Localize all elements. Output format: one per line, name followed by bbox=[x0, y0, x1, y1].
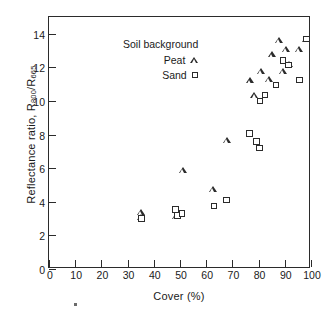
y-axis-tick-label: 6 bbox=[39, 164, 45, 175]
legend-label-peat: Peat bbox=[164, 55, 186, 66]
triangle-marker-icon bbox=[246, 77, 254, 83]
square-marker-icon bbox=[253, 138, 260, 145]
x-axis-tick: 100 bbox=[311, 260, 312, 267]
x-axis-tick-label: 100 bbox=[303, 270, 321, 281]
square-marker-icon bbox=[262, 92, 269, 99]
x-axis-tick-label: 60 bbox=[201, 270, 213, 281]
x-axis-tick-label: 50 bbox=[175, 270, 187, 281]
x-axis-tick: 0 bbox=[49, 260, 50, 267]
square-marker-icon bbox=[296, 77, 303, 84]
x-axis-tick: 30 bbox=[128, 260, 129, 267]
y-axis-tick: 2 bbox=[49, 235, 56, 236]
scatter-chart-figure: 02468101214 0102030405060708090100 Soil … bbox=[0, 0, 330, 317]
triangle-marker-icon bbox=[268, 51, 276, 57]
x-axis-tick-label: 20 bbox=[97, 270, 109, 281]
x-axis-tick-label: 10 bbox=[70, 270, 82, 281]
x-axis-tick: 20 bbox=[101, 260, 102, 267]
square-marker-icon bbox=[246, 130, 253, 137]
triangle-marker-icon bbox=[179, 167, 187, 173]
x-axis-tick: 10 bbox=[75, 260, 76, 267]
x-axis-title: Cover (%) bbox=[48, 290, 310, 302]
triangle-marker-icon bbox=[295, 46, 303, 52]
square-marker-icon bbox=[257, 98, 264, 105]
square-marker-icon bbox=[211, 203, 218, 210]
legend-label-sand: Sand bbox=[162, 70, 187, 81]
x-axis-tick-label: 40 bbox=[149, 270, 161, 281]
legend-entry-peat: Peat bbox=[123, 53, 198, 68]
x-axis-tick: 90 bbox=[285, 260, 286, 267]
x-axis-tick: 80 bbox=[259, 260, 260, 267]
y-axis-tick: 8 bbox=[49, 135, 56, 136]
square-marker-icon bbox=[273, 82, 280, 89]
plot-area: 02468101214 0102030405060708090100 Soil … bbox=[48, 16, 310, 268]
y-axis-title-sub-665: 665 bbox=[29, 65, 38, 78]
y-axis-title: Reflectance ratio, R800/R665 bbox=[25, 25, 38, 245]
triangle-marker-icon bbox=[223, 137, 231, 143]
square-marker-icon bbox=[192, 72, 199, 79]
square-marker-icon bbox=[256, 145, 263, 152]
y-axis-title-mid: /R bbox=[25, 79, 37, 90]
y-axis-tick-label: 8 bbox=[39, 130, 45, 141]
legend-title: Soil background bbox=[123, 39, 198, 50]
y-axis-tick-label: 4 bbox=[39, 198, 45, 209]
triangle-marker-icon bbox=[275, 37, 283, 43]
x-axis-tick-label: 70 bbox=[228, 270, 240, 281]
y-axis-tick: 14 bbox=[49, 34, 56, 35]
x-axis-tick-label: 90 bbox=[280, 270, 292, 281]
y-axis-tick: 4 bbox=[49, 202, 56, 203]
y-axis-tick-label: 2 bbox=[39, 231, 45, 242]
page-artifact-mark bbox=[74, 303, 77, 306]
square-marker-icon bbox=[303, 36, 310, 43]
square-marker-icon bbox=[223, 197, 230, 204]
chart-legend: Soil background Peat Sand bbox=[123, 39, 198, 83]
square-marker-icon bbox=[138, 215, 145, 222]
x-axis-tick: 60 bbox=[206, 260, 207, 267]
triangle-marker-icon bbox=[282, 46, 290, 52]
x-axis-tick: 70 bbox=[232, 260, 233, 267]
y-axis-title-sub-800: 800 bbox=[29, 90, 38, 103]
y-axis-tick: 10 bbox=[49, 101, 56, 102]
triangle-marker-icon bbox=[257, 68, 265, 74]
y-axis-title-main: Reflectance ratio, R bbox=[25, 103, 37, 204]
y-axis-tick: 12 bbox=[49, 67, 56, 68]
triangle-marker-icon bbox=[279, 68, 287, 74]
y-axis-tick-label: 0 bbox=[39, 265, 45, 276]
x-axis-tick: 50 bbox=[180, 260, 181, 267]
y-axis-tick: 6 bbox=[49, 168, 56, 169]
square-marker-icon bbox=[285, 62, 292, 69]
x-axis-tick: 40 bbox=[154, 260, 155, 267]
triangle-marker-icon bbox=[265, 76, 273, 82]
triangle-marker-icon bbox=[190, 57, 198, 63]
x-axis-tick-label: 30 bbox=[123, 270, 135, 281]
square-marker-icon bbox=[179, 210, 186, 217]
legend-entry-sand: Sand bbox=[123, 68, 198, 83]
triangle-marker-icon bbox=[209, 186, 217, 192]
x-axis-tick-label: 80 bbox=[254, 270, 266, 281]
x-axis-tick-label: 0 bbox=[47, 270, 53, 281]
